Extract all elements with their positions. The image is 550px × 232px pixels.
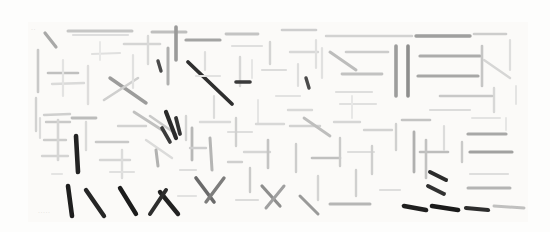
stroke-mark <box>156 150 158 166</box>
stroke-mark <box>494 206 524 208</box>
artwork-canvas: ······· <box>0 0 550 232</box>
stroke-mark <box>466 208 488 210</box>
stroke-mark <box>44 114 70 115</box>
stroke-composition <box>0 0 550 232</box>
stroke-mark <box>210 138 212 170</box>
stroke-mark <box>76 136 78 172</box>
stroke-mark <box>92 53 120 54</box>
stroke-mark <box>52 83 84 84</box>
